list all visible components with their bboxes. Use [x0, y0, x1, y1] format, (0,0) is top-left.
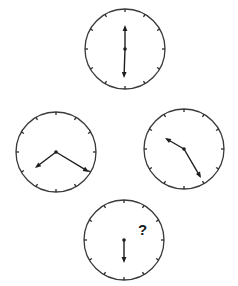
clock-center — [54, 150, 58, 154]
clock-left — [16, 112, 96, 192]
clock-center — [123, 47, 127, 51]
clock-bottom — [84, 200, 164, 280]
clock-center — [122, 238, 126, 242]
clock-right — [144, 109, 224, 189]
question-mark: ? — [138, 221, 147, 238]
clock-center — [182, 147, 186, 151]
clock-hand — [124, 49, 125, 76]
clock-puzzle-diagram: ? — [0, 0, 238, 286]
clock-top — [85, 9, 165, 89]
